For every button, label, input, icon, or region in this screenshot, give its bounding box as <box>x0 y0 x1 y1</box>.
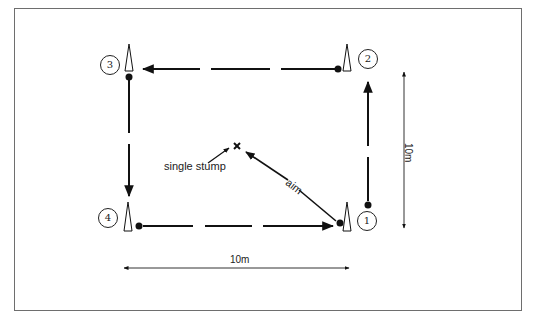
ball-marker <box>335 66 342 73</box>
station-4-marker: 4 <box>98 208 118 228</box>
station-2-marker: 2 <box>358 49 378 69</box>
single-stump-icon <box>234 143 240 149</box>
width-dimension-label: 10m <box>230 254 249 265</box>
cone-icon <box>124 44 351 231</box>
height-dimension-label: 10m <box>403 143 414 162</box>
ball-marker <box>136 223 143 230</box>
ball-marker <box>126 74 133 81</box>
station-1-marker: 1 <box>357 211 377 231</box>
drill-diagram <box>0 0 537 325</box>
station-3-marker: 3 <box>100 55 120 75</box>
ball-marker <box>365 202 372 209</box>
ball-marker <box>337 220 344 227</box>
single-stump-label: single stump <box>164 160 226 172</box>
